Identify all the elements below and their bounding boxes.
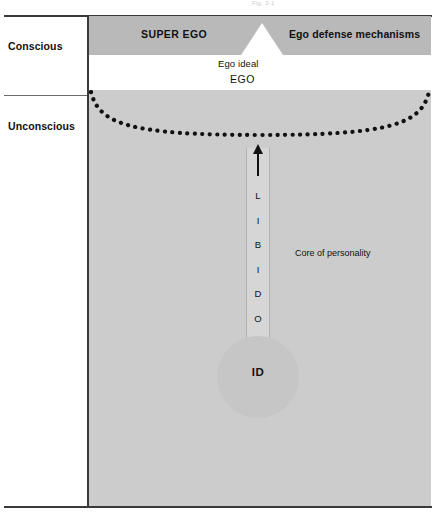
side-label-unconscious: Unconscious [8, 120, 86, 132]
libido-shaft-right-edge [269, 148, 270, 360]
libido-arrow-stem [257, 152, 259, 176]
ego-band [89, 55, 431, 90]
ego-label: EGO [230, 73, 255, 85]
core-of-personality-label: Core of personality [295, 247, 375, 260]
diagram-root: Fig. 2-1 Conscious Unconscious SUPER EGO… [0, 0, 436, 523]
frame-bottom-rule [4, 506, 432, 508]
libido-letter: I [247, 258, 269, 283]
side-label-conscious: Conscious [8, 40, 86, 52]
libido-letter: I [247, 209, 269, 234]
libido-letter: B [247, 233, 269, 258]
superego-label: SUPER EGO [141, 28, 207, 40]
libido-letter: D [247, 282, 269, 307]
conscious-unconscious-divider [4, 95, 88, 96]
libido-letter: L [247, 184, 269, 209]
censor-boundary-dotted-curve [89, 90, 431, 146]
top-caption: Fig. 2-1 [252, 0, 322, 6]
ego-defense-mechanisms-label: Ego defense mechanisms [289, 28, 420, 40]
ego-ideal-label: Ego ideal [218, 58, 259, 69]
libido-letter: O [247, 307, 269, 332]
ego-ideal-triangle [241, 23, 283, 55]
id-label: ID [217, 366, 299, 378]
libido-vertical-label: L I B I D O [247, 184, 269, 331]
psyche-diagram-panel: SUPER EGO Ego defense mechanisms Ego ide… [89, 16, 431, 506]
